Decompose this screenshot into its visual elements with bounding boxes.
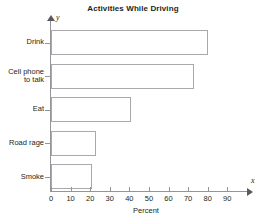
x-axis-tick-label: 70: [178, 194, 198, 203]
category-label: Smoke: [0, 173, 44, 182]
x-axis-tick: [129, 187, 130, 192]
category-label: Drink: [0, 38, 44, 47]
bar: [51, 164, 92, 189]
x-axis-tick: [227, 187, 228, 192]
y-axis-tick: [45, 143, 50, 144]
x-axis-tick-label: 90: [217, 194, 237, 203]
y-axis-letter: y: [56, 13, 60, 22]
x-axis-tick: [110, 187, 111, 192]
x-axis-tick-label: 60: [159, 194, 179, 203]
bar: [51, 97, 131, 122]
category-label: Road rage: [0, 139, 44, 148]
category-label: Eat: [0, 105, 44, 114]
x-axis-tick-label: 10: [61, 194, 81, 203]
x-axis-tick-label: 40: [119, 194, 139, 203]
x-axis-tick-label: 50: [139, 194, 159, 203]
y-axis-tick: [45, 110, 50, 111]
y-axis-tick: [45, 177, 50, 178]
y-axis-arrow-icon: [47, 15, 55, 21]
x-axis-letter: x: [251, 176, 255, 185]
x-axis-tick: [149, 187, 150, 192]
x-axis-tick: [90, 187, 91, 192]
bar: [51, 131, 96, 156]
bar-chart: Activities While Driving y x DrinkCell p…: [0, 0, 266, 221]
plot-area: [51, 22, 241, 190]
category-label: Cell phoneto talk: [0, 68, 44, 85]
x-axis-line: [51, 191, 249, 192]
x-axis-title: Percent: [51, 206, 241, 215]
y-axis-tick: [45, 76, 50, 77]
x-axis-arrow-icon: [247, 188, 253, 196]
x-axis-tick: [188, 187, 189, 192]
x-axis-tick-label: 80: [198, 194, 218, 203]
y-axis-tick: [45, 43, 50, 44]
bar: [51, 30, 208, 55]
x-axis-tick-label: 30: [100, 194, 120, 203]
x-axis-tick: [71, 187, 72, 192]
x-axis-tick-label: 0: [41, 194, 61, 203]
x-axis-tick-label: 20: [80, 194, 100, 203]
category-labels: DrinkCell phoneto talkEatRoad rageSmoke: [0, 22, 44, 190]
x-axis-tick: [208, 187, 209, 192]
x-axis-tick: [51, 187, 52, 192]
x-axis-tick: [169, 187, 170, 192]
bar: [51, 64, 194, 89]
chart-title: Activities While Driving: [0, 4, 266, 13]
